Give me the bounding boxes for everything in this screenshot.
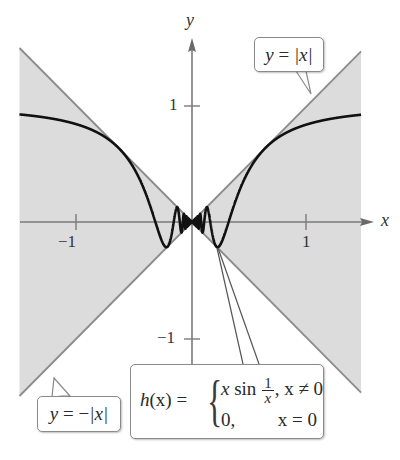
frac-denominator: x <box>262 391 274 405</box>
callout-abs-rhs: |x| <box>294 44 313 65</box>
h-case-nonzero: x sin 1x, x ≠ 0 <box>221 376 323 405</box>
callout-negabs-rhs: |x| <box>89 403 108 424</box>
h-fn-arg: (x) <box>150 389 172 410</box>
callout-abs-x: y = |x| <box>254 37 324 72</box>
y-tick-label-neg1: −1 <box>157 328 175 348</box>
callout-abs-eq: = <box>274 44 294 65</box>
y-tick-label-pos1: 1 <box>169 95 178 115</box>
fraction-one-over-x: 1x <box>262 376 274 405</box>
h-row2-value: 0, <box>221 409 235 430</box>
h-row2-condition: x = 0 <box>278 409 317 431</box>
callout-h-definition: h(x) = { x sin 1x, x ≠ 0 0,x = 0 <box>130 364 324 439</box>
frac-numerator: 1 <box>262 376 274 391</box>
abs-callout-pointer <box>296 71 311 94</box>
callout-negabs-eq: = − <box>58 403 89 424</box>
h-case-zero: 0,x = 0 <box>221 409 317 431</box>
x-tick-label-pos1: 1 <box>302 232 311 252</box>
y-axis-arrow-icon <box>188 38 196 52</box>
y-axis-label: y <box>186 10 194 31</box>
x-axis-arrow-icon <box>360 218 374 226</box>
callout-neg-abs-x: y = −|x| <box>37 396 121 432</box>
x-tick-label-neg1: −1 <box>58 232 76 252</box>
h-row1-condition: , x ≠ 0 <box>275 378 323 399</box>
callout-abs-lhs: y <box>265 44 273 65</box>
negabs-callout-pointer <box>52 378 70 397</box>
x-axis-label: x <box>381 210 389 231</box>
h-eq: = <box>172 389 192 410</box>
h-row1-sin: sin <box>229 378 261 399</box>
h-lhs: h(x) = <box>140 389 192 411</box>
h-fn-name: h <box>140 389 150 410</box>
